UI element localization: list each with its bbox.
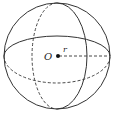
equator-front-arc [4,36,110,56]
equator-back-arc [4,56,110,83]
radius-label: r [63,45,68,54]
center-label: O [44,51,52,62]
sphere-diagram: O r [0,0,113,118]
center-point [56,54,60,58]
